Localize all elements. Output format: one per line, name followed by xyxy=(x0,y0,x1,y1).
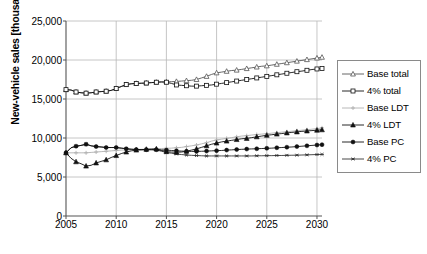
legend-marker-icon xyxy=(341,101,365,115)
legend-marker-icon xyxy=(341,135,365,149)
y-tick-label: 25,000 xyxy=(22,16,62,27)
series-base-ldt xyxy=(64,126,324,155)
legend-item: Base LDT xyxy=(341,99,417,116)
legend-label: Base LDT xyxy=(365,102,409,113)
y-tick-label: 10,000 xyxy=(22,133,62,144)
x-tick-label: 2015 xyxy=(144,219,188,230)
legend-item: 4% total xyxy=(341,82,417,99)
legend-marker-icon xyxy=(341,67,365,81)
chart-legend: Base total4% totalBase LDT4% LDTBase PC4… xyxy=(337,60,421,173)
legend-item: 4% PC xyxy=(341,150,417,167)
y-tick-label: 20,000 xyxy=(22,55,62,66)
legend-label: Base total xyxy=(365,68,409,79)
x-tick-label: 2030 xyxy=(295,219,339,230)
legend-label: 4% LDT xyxy=(365,119,401,130)
y-axis-tick-labels: 05,00010,00015,00020,00025,000 xyxy=(18,0,62,254)
x-tick-label: 2010 xyxy=(94,219,138,230)
legend-marker-icon xyxy=(341,84,365,98)
x-tick-label: 2025 xyxy=(245,219,289,230)
y-tick-label: 5,000 xyxy=(22,172,62,183)
legend-label: 4% PC xyxy=(365,153,396,164)
x-tick-label: 2020 xyxy=(195,219,239,230)
legend-marker-icon xyxy=(341,118,365,132)
legend-item: 4% LDT xyxy=(341,116,417,133)
y-tick-label: 15,000 xyxy=(22,94,62,105)
x-tick-label: 2005 xyxy=(44,219,88,230)
legend-marker-icon xyxy=(341,152,365,166)
series-base-pc xyxy=(64,142,324,155)
legend-item: Base PC xyxy=(341,133,417,150)
legend-item: Base total xyxy=(341,65,417,82)
legend-label: Base PC xyxy=(365,136,404,147)
chart-figure: New-vehicle sales [thousand] 05,00010,00… xyxy=(0,0,427,254)
legend-label: 4% total xyxy=(365,85,401,96)
